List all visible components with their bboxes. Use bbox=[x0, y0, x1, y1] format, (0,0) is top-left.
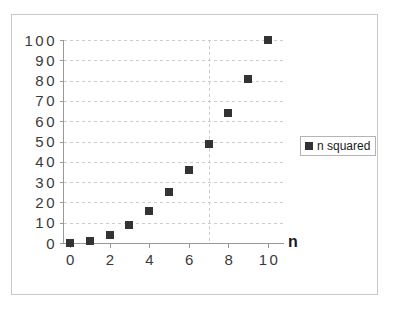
x-axis-tick-label: 4 bbox=[145, 252, 156, 267]
data-point bbox=[165, 188, 173, 196]
data-point bbox=[205, 140, 213, 148]
data-point bbox=[125, 221, 133, 229]
y-axis-tick-label: 100 bbox=[24, 33, 57, 48]
data-point bbox=[244, 75, 252, 83]
legend-series-label: n squared bbox=[317, 140, 370, 152]
chart-legend[interactable]: n squared bbox=[300, 136, 376, 156]
data-point bbox=[145, 207, 153, 215]
x-axis-title: n bbox=[288, 234, 298, 250]
series-marker-swatch-icon bbox=[305, 142, 313, 150]
data-point bbox=[106, 231, 114, 239]
x-axis-tick-labels: 0246810 bbox=[0, 252, 396, 274]
y-axis-tick-label: 60 bbox=[35, 114, 57, 129]
x-axis-tick-label: 8 bbox=[224, 252, 235, 267]
data-point bbox=[264, 36, 272, 44]
y-axis-tick-label: 10 bbox=[35, 215, 57, 230]
data-point bbox=[224, 109, 232, 117]
data-point bbox=[66, 239, 74, 247]
data-point bbox=[86, 237, 94, 245]
y-axis-tick-label: 80 bbox=[35, 73, 57, 88]
x-axis-tick-label: 10 bbox=[259, 252, 281, 267]
y-axis-tick-label: 40 bbox=[35, 154, 57, 169]
y-axis-tick-label: 0 bbox=[46, 236, 57, 251]
y-axis-tick-label: 20 bbox=[35, 195, 57, 210]
y-axis-tick-label: 50 bbox=[35, 134, 57, 149]
y-axis-tick-label: 30 bbox=[35, 175, 57, 190]
data-point bbox=[185, 166, 193, 174]
x-axis-tick-label: 6 bbox=[185, 252, 196, 267]
y-axis-tick-label: 90 bbox=[35, 53, 57, 68]
y-axis-tick-label: 70 bbox=[35, 93, 57, 108]
x-axis-tick-label: 0 bbox=[66, 252, 77, 267]
x-axis-tick-label: 2 bbox=[106, 252, 117, 267]
